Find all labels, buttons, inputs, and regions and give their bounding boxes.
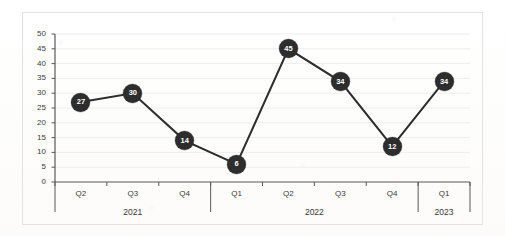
y-axis-tick-label: 15: [24, 133, 46, 142]
x-axis-tick-label: Q3: [320, 189, 360, 198]
x-axis-tick-label: Q4: [372, 189, 412, 198]
y-axis-tick-label: 50: [24, 29, 46, 38]
y-axis-tick-label: 35: [24, 73, 46, 82]
data-point-marker[interactable]: 27: [71, 93, 90, 112]
x-axis-tick-label: Q4: [165, 189, 205, 198]
y-axis-tick-label: 40: [24, 59, 46, 68]
y-axis-tick-label: 25: [24, 103, 46, 112]
x-axis-tick-label: Q2: [268, 189, 308, 198]
x-axis-group-label: 2023: [414, 207, 474, 217]
gridlines-group: [55, 34, 470, 167]
line-chart-canvas: [0, 0, 505, 236]
x-axis-ticks-group: [55, 182, 470, 186]
data-point-marker[interactable]: 12: [383, 137, 402, 156]
data-point-marker[interactable]: 34: [435, 72, 454, 91]
x-axis-tick-label: Q1: [217, 189, 257, 198]
data-point-marker[interactable]: 34: [331, 72, 350, 91]
x-axis-tick-label: Q2: [61, 189, 101, 198]
y-axis-tick-label: 45: [24, 44, 46, 53]
x-axis-group-label: 2022: [284, 207, 344, 217]
y-axis-tick-label: 30: [24, 88, 46, 97]
y-axis-tick-label: 0: [24, 177, 46, 186]
y-axis-tick-label: 10: [24, 147, 46, 156]
data-point-marker[interactable]: 30: [123, 84, 142, 103]
y-axis-tick-label: 20: [24, 118, 46, 127]
y-axis-tick-label: 5: [24, 162, 46, 171]
data-point-marker[interactable]: 6: [227, 155, 246, 174]
x-axis-tick-label: Q3: [113, 189, 153, 198]
x-axis-group-label: 2021: [103, 207, 163, 217]
x-axis-tick-label: Q1: [424, 189, 464, 198]
